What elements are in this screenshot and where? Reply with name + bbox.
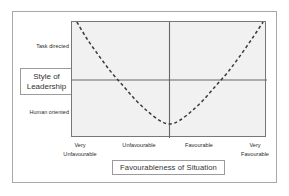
x-axis-label-0-line1: Very <box>57 141 103 150</box>
y-axis-label-human-oriented: Human oriented <box>10 109 69 115</box>
y-axis-title-line1: Style of <box>33 72 60 81</box>
leadership-style-diagram: Task directed Human oriented Style of Le… <box>0 0 289 196</box>
x-axis-title-text: Favourableness of Situation <box>120 163 217 172</box>
x-axis-label-unfavourable: Unfavourable <box>116 141 162 150</box>
y-axis-title-box: Style of Leadership <box>20 68 73 95</box>
x-axis-label-very-unfavourable: Very Unfavourable <box>57 141 103 158</box>
x-axis-label-0-line2: Unfavourable <box>57 150 103 159</box>
plot-canvas <box>72 22 267 138</box>
x-axis-label-3-line2: Favourable <box>232 150 278 159</box>
x-axis-label-2-line1: Favourable <box>176 141 222 150</box>
y-axis-title-line2: Leadership <box>27 82 67 91</box>
y-axis-label-task-directed: Task directed <box>16 43 69 49</box>
x-axis-label-1-line1: Unfavourable <box>116 141 162 150</box>
x-axis-title-box: Favourableness of Situation <box>112 160 225 175</box>
x-axis-label-3-line1: Very <box>232 141 278 150</box>
x-axis-label-favourable: Favourable <box>176 141 222 150</box>
plot-area <box>71 21 266 137</box>
x-axis-label-very-favourable: Very Favourable <box>232 141 278 158</box>
